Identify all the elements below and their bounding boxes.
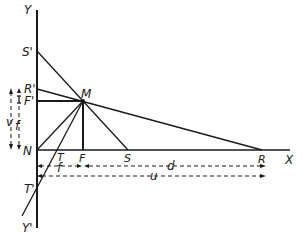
label-f: F	[79, 152, 86, 165]
label-t-prime: T'	[24, 182, 35, 196]
arrow-icon	[9, 88, 13, 94]
label-d: d	[167, 159, 175, 173]
label-u: u	[150, 169, 158, 183]
label-y: Y	[24, 3, 33, 17]
label-r: R	[258, 153, 266, 166]
line-r-prime-r	[37, 89, 262, 150]
label-y-prime: Y'	[22, 221, 33, 235]
label-f-vertical: f	[15, 119, 21, 133]
label-s-prime: S'	[22, 45, 33, 59]
arrow-icon	[17, 88, 21, 93]
label-m: M	[81, 87, 92, 101]
arrow-icon	[260, 174, 266, 178]
line-n-m	[37, 101, 83, 150]
label-v: v	[6, 115, 14, 129]
label-x: X	[284, 153, 294, 167]
optics-diagram: Y Y' X S' R' F' N M T F S R T' v f f d u	[0, 0, 303, 235]
label-f-prime: F'	[24, 94, 34, 108]
arrow-icon	[17, 145, 21, 150]
label-n: N	[23, 144, 32, 158]
line-t-prime-m	[22, 101, 83, 216]
arrow-icon	[9, 144, 13, 150]
label-s: S	[124, 152, 131, 165]
